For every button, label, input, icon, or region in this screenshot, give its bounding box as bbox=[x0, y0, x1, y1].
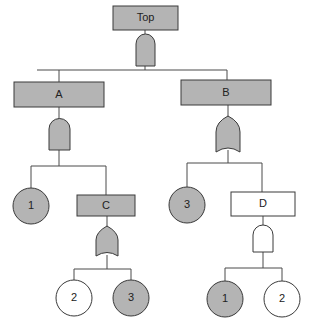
or-gate-icon bbox=[96, 226, 118, 256]
event-c[interactable]: C bbox=[77, 195, 135, 216]
basic-event-label: 1 bbox=[28, 199, 34, 211]
event-label: D bbox=[259, 197, 267, 209]
basic-event-1[interactable]: 1 bbox=[13, 188, 49, 224]
and-gate-icon bbox=[253, 225, 273, 252]
event-a[interactable]: A bbox=[14, 82, 104, 107]
basic-event-2[interactable]: 2 bbox=[264, 281, 300, 317]
event-top[interactable]: Top bbox=[113, 6, 178, 30]
event-label: A bbox=[55, 88, 63, 100]
basic-event-label: 3 bbox=[128, 291, 134, 303]
basic-event-label: 2 bbox=[71, 291, 77, 303]
connectors bbox=[31, 30, 282, 281]
basic-event-2[interactable]: 2 bbox=[56, 280, 92, 316]
basic-event-label: 2 bbox=[279, 292, 285, 304]
basic-event-3[interactable]: 3 bbox=[113, 280, 149, 316]
event-label: Top bbox=[137, 11, 155, 23]
or-gate-icon bbox=[216, 116, 240, 152]
basic-event-label: 3 bbox=[184, 198, 190, 210]
event-d[interactable]: D bbox=[231, 192, 295, 216]
and-gate-icon bbox=[49, 119, 70, 151]
and-gate-icon bbox=[136, 34, 155, 66]
basic-event-1[interactable]: 1 bbox=[207, 281, 243, 317]
fault-tree-diagram: Top A B 1 C 2 3 3 D bbox=[0, 0, 309, 330]
event-label: B bbox=[222, 86, 229, 98]
basic-event-label: 1 bbox=[222, 292, 228, 304]
event-b[interactable]: B bbox=[181, 80, 271, 105]
event-label: C bbox=[102, 199, 110, 211]
basic-event-3[interactable]: 3 bbox=[169, 187, 205, 223]
